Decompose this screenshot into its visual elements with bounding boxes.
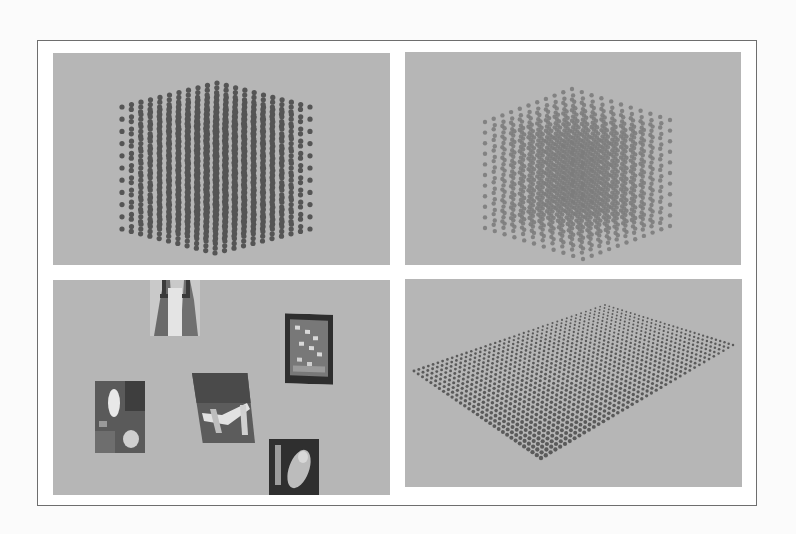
panel-cube-dense — [53, 53, 390, 265]
plane-lattice — [405, 279, 742, 487]
artwork-dark-portrait — [269, 439, 319, 495]
panel-cube-sparse — [405, 52, 741, 265]
cube-lattice-dense — [53, 53, 390, 265]
panel-artworks — [53, 280, 390, 495]
artwork-framed-mosaic — [285, 313, 333, 385]
panel-plane-grid — [405, 279, 742, 487]
artwork-figure-foliage — [95, 381, 145, 453]
artwork-branches — [192, 373, 255, 443]
cube-lattice-sparse — [405, 52, 741, 265]
artwork-figures — [150, 280, 200, 336]
